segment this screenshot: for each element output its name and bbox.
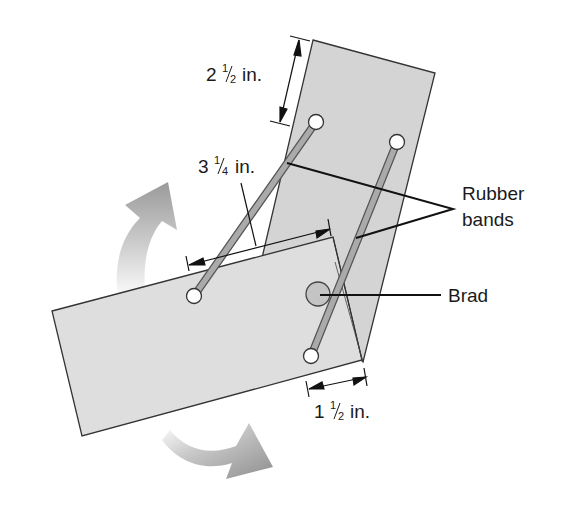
band-span-num: 1	[214, 154, 220, 166]
upper-length-whole: 2	[206, 64, 217, 85]
svg-text:4: 4	[222, 165, 228, 177]
lower-offset-den: 2	[338, 410, 344, 422]
svg-text:1: 1	[222, 62, 228, 74]
lower-offset-unit: in.	[350, 401, 370, 422]
upper-length-num: 1	[222, 62, 228, 74]
brad-label: Brad	[448, 285, 488, 306]
lower-offset-num: 1	[330, 399, 336, 411]
upper-length-unit: in.	[242, 64, 262, 85]
pin-lower-right	[304, 349, 319, 364]
svg-text:in.: in.	[242, 64, 262, 85]
band-span-whole: 3	[198, 156, 209, 177]
svg-text:bands: bands	[462, 209, 514, 230]
svg-text:in.: in.	[235, 156, 255, 177]
svg-text:2: 2	[338, 410, 344, 422]
svg-text:in.: in.	[350, 401, 370, 422]
svg-text:2: 2	[230, 73, 236, 85]
svg-text:Brad: Brad	[448, 285, 488, 306]
pin-upper-left	[309, 115, 324, 130]
svg-text:1: 1	[214, 154, 220, 166]
band-span-den: 4	[222, 165, 228, 177]
pin-upper-right	[390, 135, 405, 150]
lower-offset-whole: 1	[314, 401, 325, 422]
rubber-bands-label-1: Rubber	[462, 183, 525, 204]
svg-text:Rubber: Rubber	[462, 183, 525, 204]
svg-text:3: 3	[198, 156, 209, 177]
elbow-joint-diagram: 2 1 2 in. 3 1 4 in. 1 1 2 in. Rubber ban…	[0, 0, 574, 509]
svg-text:1: 1	[314, 401, 325, 422]
upper-length-den: 2	[230, 73, 236, 85]
rubber-bands-label-2: bands	[462, 209, 514, 230]
pin-lower-left	[187, 289, 202, 304]
band-span-unit: in.	[235, 156, 255, 177]
svg-text:2: 2	[206, 64, 217, 85]
rotate-down-arrow-icon	[162, 423, 273, 479]
svg-text:1: 1	[330, 399, 336, 411]
